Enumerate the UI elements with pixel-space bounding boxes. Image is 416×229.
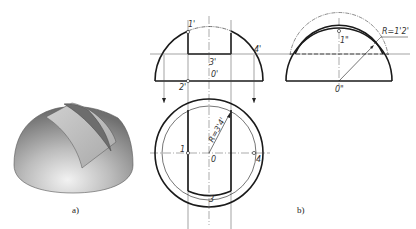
label-1prime: 1' [188, 20, 195, 29]
caption-b: b) [297, 205, 305, 215]
panel-a-hemisphere-3d: a) [14, 103, 133, 215]
label-1double: 1" [340, 36, 349, 45]
label-0: 0 [211, 155, 216, 164]
label-0prime: 0' [211, 70, 218, 79]
label-1: 1 [180, 145, 185, 154]
caption-a: a) [72, 205, 79, 215]
side-view: 1" 0" R=1'2' [286, 13, 409, 94]
label-side-radius: R=1'2' [382, 27, 409, 36]
technical-drawing: a) [0, 0, 416, 229]
label-4prime: 4' [254, 45, 261, 54]
label-3prime: 3' [209, 58, 216, 67]
label-0double: 0" [335, 85, 344, 94]
label-4: 4 [256, 155, 261, 164]
label-2prime: 2' [179, 83, 186, 92]
label-top-radius: R=3'4' [207, 116, 228, 144]
top-view: 1 3 4 0 R=3'4' [150, 99, 270, 207]
label-3: 3 [209, 195, 214, 204]
panel-b-orthographic: 1' 2' 3' 4' 0' 1" 0" R=1'2' [150, 13, 410, 229]
